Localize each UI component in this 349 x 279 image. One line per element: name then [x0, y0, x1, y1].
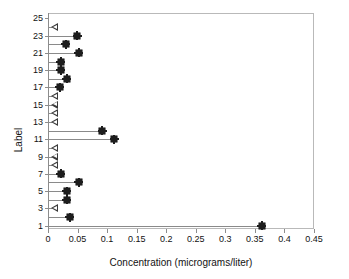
- y-tick-label: 7: [38, 169, 43, 179]
- x-tick: [196, 229, 197, 233]
- x-tick-label: 0.3: [219, 234, 232, 244]
- y-tick: [45, 87, 49, 88]
- y-tick-label: 19: [33, 65, 43, 75]
- x-tick-label: 0.2: [160, 234, 173, 244]
- y-tick-label: 5: [38, 186, 43, 196]
- chart-container: 135791113151719212325 00.050.10.150.20.2…: [0, 0, 349, 279]
- y-tick-label: 21: [33, 48, 43, 58]
- y-tick: [45, 139, 49, 140]
- x-tick-label: 0.45: [305, 234, 323, 244]
- y-tick: [45, 226, 49, 227]
- x-axis-title: Concentration (micrograms/liter): [48, 257, 314, 268]
- y-tick: [45, 191, 49, 192]
- x-tick: [255, 229, 256, 233]
- y-tick-label: 9: [38, 152, 43, 162]
- plot-area: 135791113151719212325: [48, 13, 314, 229]
- y-tick-label: 3: [38, 203, 43, 213]
- y-tick: [45, 208, 49, 209]
- x-tick-label: 0: [45, 234, 50, 244]
- y-tick-label: 1: [38, 221, 43, 231]
- x-tick: [48, 229, 49, 233]
- y-tick: [45, 18, 49, 19]
- y-axis: 135791113151719212325: [49, 14, 313, 228]
- y-axis-title: Label: [13, 127, 24, 151]
- y-tick: [45, 53, 49, 54]
- y-tick-label: 13: [33, 117, 43, 127]
- y-tick-label: 25: [33, 13, 43, 23]
- y-tick-label: 11: [34, 134, 43, 144]
- x-tick: [166, 229, 167, 233]
- x-tick: [225, 229, 226, 233]
- y-tick: [45, 122, 49, 123]
- y-tick-label: 15: [33, 100, 43, 110]
- y-tick: [45, 174, 49, 175]
- x-tick-label: 0.1: [101, 234, 114, 244]
- x-tick-label: 0.35: [246, 234, 264, 244]
- x-tick: [284, 229, 285, 233]
- x-tick: [107, 229, 108, 233]
- x-tick-label: 0.05: [69, 234, 87, 244]
- y-tick: [45, 70, 49, 71]
- x-tick: [78, 229, 79, 233]
- x-tick-label: 0.25: [187, 234, 205, 244]
- x-axis: 00.050.10.150.20.250.30.350.40.45: [48, 229, 314, 249]
- y-tick: [45, 157, 49, 158]
- x-tick-label: 0.4: [278, 234, 291, 244]
- x-tick: [137, 229, 138, 233]
- y-tick-label: 17: [33, 82, 43, 92]
- y-tick-label: 23: [33, 31, 43, 41]
- y-tick: [45, 105, 49, 106]
- x-tick-label: 0.15: [128, 234, 146, 244]
- y-tick: [45, 36, 49, 37]
- x-tick: [314, 229, 315, 233]
